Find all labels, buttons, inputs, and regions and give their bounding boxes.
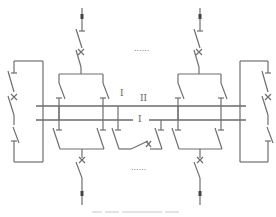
- bus-label-1-lower: I: [138, 115, 142, 124]
- bus-coupler: [112, 106, 164, 149]
- fuse-icon: [81, 191, 84, 196]
- breaker-icon: [265, 94, 271, 100]
- fuse-icon: [199, 191, 202, 196]
- bottom-right-feeder: [172, 106, 224, 205]
- fuse-icon: [199, 14, 202, 19]
- fuse-icon: [81, 14, 84, 19]
- ellipsis-bottom: ......: [131, 164, 146, 172]
- right-bypass: [240, 61, 273, 162]
- bottom-left-feeder: [53, 106, 106, 205]
- breaker-icon: [146, 141, 151, 147]
- left-bypass: [8, 61, 43, 162]
- breaker-icon: [11, 94, 17, 100]
- figure-caption-faint: [92, 211, 192, 214]
- top-left-feeder: [56, 8, 109, 120]
- bus-label-1-upper: I: [120, 89, 124, 98]
- breaker-icon: [196, 49, 202, 55]
- breaker-icon: [78, 49, 84, 55]
- bus-label-2: II: [140, 94, 147, 103]
- wiring-diagram: [0, 0, 276, 217]
- ellipsis-top: ......: [134, 45, 149, 53]
- top-right-feeder: [175, 8, 227, 120]
